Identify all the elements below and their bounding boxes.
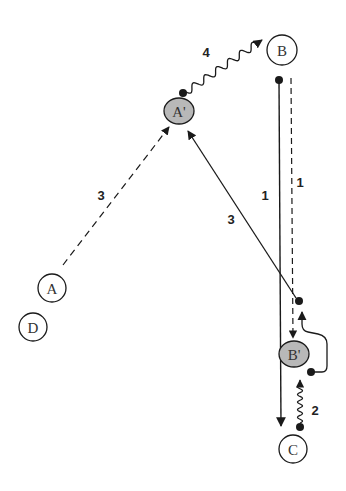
dashed-line (63, 127, 169, 265)
node-b-prime-label: B' (288, 347, 301, 363)
wavy-line (298, 380, 303, 423)
node-a-prime-label: A' (172, 104, 186, 120)
edge-c-to-bprime-wavy (296, 380, 304, 431)
edge-bprime-loop-curved (302, 312, 327, 376)
node-b-label: B (277, 43, 287, 59)
node-a: A (38, 274, 66, 302)
edge-label-3-solid: 3 (227, 212, 234, 227)
edge-label-1-dashed: 1 (296, 175, 303, 190)
node-c: C (279, 435, 307, 463)
node-b: B (267, 35, 297, 65)
node-c-label: C (288, 442, 298, 458)
edge-a-to-aprime-dashed (63, 127, 169, 265)
start-dot (179, 89, 187, 97)
start-dot (295, 297, 303, 305)
start-dot (296, 423, 304, 431)
edge-label-3-dashed: 3 (97, 188, 104, 203)
node-a-label: A (47, 281, 58, 297)
edge-aprime-to-b-wavy (179, 40, 262, 97)
edge-label-1-solid: 1 (261, 188, 268, 203)
edge-label-4: 4 (202, 45, 210, 60)
edge-bprime-to-aprime-solid (188, 131, 303, 305)
node-d: D (19, 313, 47, 341)
dashed-line (291, 78, 293, 338)
play-diagram: B A' A D B' C 4 1 1 3 3 2 (0, 0, 346, 491)
solid-line (279, 80, 281, 426)
wavy-line (186, 40, 262, 93)
edge-label-2: 2 (311, 403, 318, 418)
node-d-label: D (28, 320, 39, 336)
node-a-prime: A' (164, 98, 194, 124)
edge-b-to-bprime-dashed (291, 78, 293, 338)
node-b-prime: B' (279, 341, 309, 367)
edge-b-to-c-solid (275, 76, 283, 426)
